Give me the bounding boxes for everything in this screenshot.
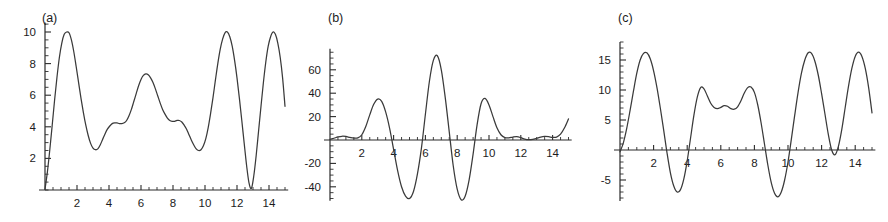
y-tick-label: 8 bbox=[30, 58, 36, 70]
x-tick-label: 10 bbox=[199, 197, 212, 209]
x-tick-label: 14 bbox=[263, 197, 276, 209]
y-tick-label: 6 bbox=[30, 89, 36, 101]
x-tick-label: 2 bbox=[359, 147, 365, 159]
x-tick-label: 8 bbox=[170, 197, 176, 209]
x-tick-label: 10 bbox=[483, 147, 496, 159]
x-tick-label: 6 bbox=[718, 157, 724, 169]
x-tick-label: 4 bbox=[106, 197, 113, 209]
x-tick-label: 6 bbox=[138, 197, 144, 209]
x-tick-label: 2 bbox=[74, 197, 80, 209]
chart-panel-c: 2468101214-551015(c) bbox=[582, 0, 888, 222]
panel-tag-label: (b) bbox=[328, 11, 343, 25]
panel-b-svg: 2468101214-40-20204060(b) bbox=[292, 0, 588, 222]
y-tick-label: 4 bbox=[30, 121, 37, 133]
data-curve bbox=[330, 55, 569, 200]
y-tick-label: 2 bbox=[30, 152, 36, 164]
y-tick-label: 40 bbox=[308, 87, 321, 99]
panel-tag-label: (c) bbox=[618, 11, 633, 25]
x-tick-label: 2 bbox=[650, 157, 656, 169]
y-tick-label: 5 bbox=[605, 114, 611, 126]
data-curve bbox=[45, 32, 285, 190]
y-tick-label: -5 bbox=[601, 174, 611, 186]
chart-panel-a: 2468101214246810(a) bbox=[0, 0, 300, 222]
panel-c-svg: 2468101214-551015(c) bbox=[582, 0, 888, 222]
x-tick-label: 8 bbox=[454, 147, 460, 159]
panel-a-svg: 2468101214246810(a) bbox=[0, 0, 300, 222]
x-tick-label: 12 bbox=[231, 197, 244, 209]
y-tick-label: 10 bbox=[598, 84, 611, 96]
chart-panel-b: 2468101214-40-20204060(b) bbox=[292, 0, 588, 222]
x-tick-label: 12 bbox=[815, 157, 828, 169]
y-tick-label: -40 bbox=[304, 181, 321, 193]
y-tick-label: 60 bbox=[308, 64, 321, 76]
x-tick-label: 14 bbox=[546, 147, 559, 159]
y-tick-label: -20 bbox=[304, 157, 321, 169]
panel-tag-label: (a) bbox=[42, 11, 57, 25]
figure-three-panel-plot: 2468101214246810(a) 2468101214-40-202040… bbox=[0, 0, 888, 222]
x-tick-label: 8 bbox=[751, 157, 757, 169]
x-tick-label: 14 bbox=[849, 157, 862, 169]
y-tick-label: 10 bbox=[23, 26, 36, 38]
x-tick-label: 6 bbox=[422, 147, 428, 159]
x-tick-label: 12 bbox=[514, 147, 527, 159]
y-tick-label: 15 bbox=[598, 54, 611, 66]
y-tick-label: 20 bbox=[308, 111, 321, 123]
data-curve bbox=[620, 52, 872, 197]
